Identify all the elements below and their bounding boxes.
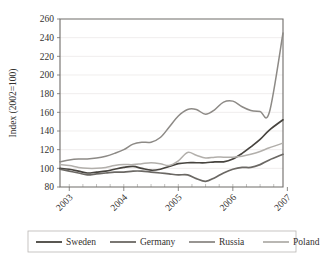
y-axis-tick-labels: 80100120140160180200220240260: [40, 14, 55, 192]
y-axis-tick-label: 100: [40, 164, 55, 174]
series-line-russia: [60, 33, 283, 162]
legend-label-russia: Russia: [219, 237, 245, 247]
x-axis-tick-label: 2006: [218, 192, 239, 213]
legend: SwedenGermanyRussiaPoland: [36, 237, 320, 247]
y-axis-tick-label: 240: [40, 33, 55, 43]
y-axis-tick-label: 120: [40, 145, 55, 155]
y-axis-tick-label: 260: [40, 14, 55, 24]
x-axis-tick-label: 2007: [272, 192, 293, 213]
legend-label-poland: Poland: [293, 237, 320, 247]
line-chart: 80100120140160180200220240260 2003200420…: [0, 0, 320, 260]
y-axis-tick-label: 200: [40, 70, 55, 80]
y-axis-title: Index (2002=100): [8, 69, 19, 138]
chart-svg: 80100120140160180200220240260 2003200420…: [0, 0, 320, 260]
x-axis-tick-label: 2003: [54, 192, 75, 213]
y-axis-tick-label: 220: [40, 52, 55, 62]
y-axis-tick-label: 140: [40, 126, 55, 136]
y-axis-tick-label: 80: [45, 182, 55, 192]
series-lines: [60, 33, 283, 181]
x-axis-tick-labels: 20032004200520062007: [54, 192, 293, 213]
legend-label-germany: Germany: [140, 237, 176, 247]
x-axis-tick-label: 2005: [163, 192, 184, 213]
x-tick-marks: [69, 187, 287, 191]
plot-frame: [60, 19, 283, 187]
legend-label-sweden: Sweden: [66, 237, 96, 247]
x-axis-tick-label: 2004: [109, 192, 130, 213]
y-axis-tick-label: 160: [40, 108, 55, 118]
y-axis-tick-label: 180: [40, 89, 55, 99]
